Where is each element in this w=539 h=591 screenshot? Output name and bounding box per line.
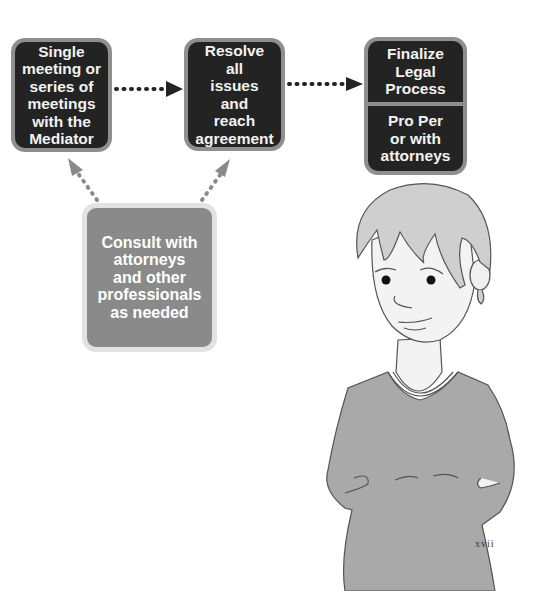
- node-line: issues: [188, 77, 281, 95]
- arrow-b1-to-b2: [116, 81, 183, 97]
- node-line: as needed: [87, 304, 212, 322]
- node-line: Mediator: [15, 130, 108, 148]
- page-number: xvii: [475, 538, 495, 549]
- woman-illustration: [327, 184, 514, 591]
- node-line: series of: [15, 78, 108, 96]
- node-consult-professionals: Consult with attorneys and other profess…: [82, 203, 217, 352]
- node-line: and: [188, 95, 281, 113]
- node-line: meetings: [15, 95, 108, 113]
- node-line: or with: [368, 130, 463, 148]
- arrow-b2-to-b3: [289, 77, 363, 91]
- node-line: Resolve: [188, 42, 281, 60]
- node-line: Single: [15, 43, 108, 61]
- arrow-b4-to-b2: [202, 159, 230, 200]
- node-section-top: Finalize Legal Process: [368, 41, 463, 102]
- node-line: Legal: [368, 63, 463, 81]
- node-line: Pro Per: [368, 112, 463, 130]
- node-line: meeting or: [15, 60, 108, 78]
- node-line: agreement: [188, 130, 281, 148]
- node-line: all: [188, 60, 281, 78]
- arrow-b4-to-b1: [68, 158, 97, 200]
- node-line: Consult with: [87, 234, 212, 252]
- node-line: professionals: [87, 286, 212, 304]
- node-resolve-issues: Resolve all issues and reach agreement: [184, 38, 285, 151]
- node-section-bottom: Pro Per or with attorneys: [368, 106, 463, 171]
- node-line: attorneys: [87, 251, 212, 269]
- node-line: and other: [87, 269, 212, 287]
- node-mediator-meetings: Single meeting or series of meetings wit…: [11, 38, 112, 152]
- node-line: with the: [15, 113, 108, 131]
- node-line: reach: [188, 112, 281, 130]
- node-line: Process: [368, 80, 463, 98]
- node-finalize-legal-process: Finalize Legal Process Pro Per or with a…: [364, 37, 467, 175]
- node-line: Finalize: [368, 45, 463, 63]
- node-line: attorneys: [368, 147, 463, 165]
